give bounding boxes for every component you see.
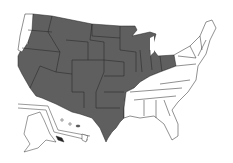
state-alaska bbox=[24, 112, 56, 152]
us-map bbox=[0, 0, 233, 163]
